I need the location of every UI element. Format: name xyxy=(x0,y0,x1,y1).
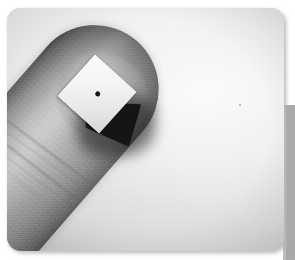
photo-vignette xyxy=(7,8,284,251)
screenshot-root xyxy=(0,0,295,260)
photograph xyxy=(7,8,284,251)
